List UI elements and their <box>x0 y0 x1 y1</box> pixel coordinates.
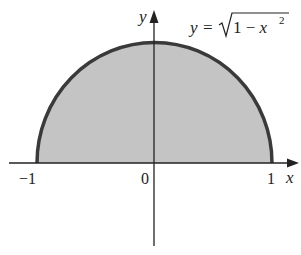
x-axis-label: x <box>285 168 294 187</box>
equation-lhs: y <box>188 18 198 37</box>
tick-one: 1 <box>267 170 275 187</box>
tick-zero: 0 <box>141 170 149 187</box>
curve-equation: y = 1 − x 2 <box>188 13 289 37</box>
diagram-svg: y x −1 0 1 y = 1 − x 2 <box>0 0 301 255</box>
tick-neg-one: −1 <box>19 170 36 187</box>
equation-equals: = <box>203 18 213 37</box>
equation-exponent: 2 <box>279 14 285 26</box>
y-axis-arrow-icon <box>150 10 159 23</box>
semicircle-diagram: y x −1 0 1 y = 1 − x 2 <box>0 0 301 255</box>
equation-radicand: 1 − x <box>233 18 268 37</box>
x-axis-arrow-icon <box>287 159 299 168</box>
y-axis-label: y <box>137 7 147 26</box>
